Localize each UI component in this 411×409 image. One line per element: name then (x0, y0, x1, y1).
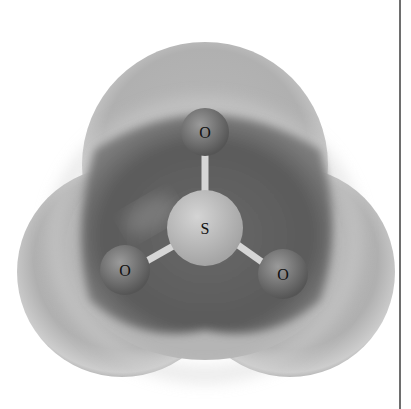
atom-label-s: S (201, 220, 210, 237)
atom-sulfur-center: S (167, 190, 243, 266)
atom-label-o-top: O (199, 124, 211, 141)
atom-oxygen-top: O (181, 108, 229, 156)
atom-label-o-right: O (277, 266, 289, 283)
atom-label-o-left: O (119, 262, 131, 279)
atom-oxygen-right: O (258, 249, 308, 299)
so3-electron-density-figure: O S O O (0, 0, 411, 409)
atom-oxygen-left: O (100, 245, 150, 295)
page-divider-line (399, 0, 401, 409)
